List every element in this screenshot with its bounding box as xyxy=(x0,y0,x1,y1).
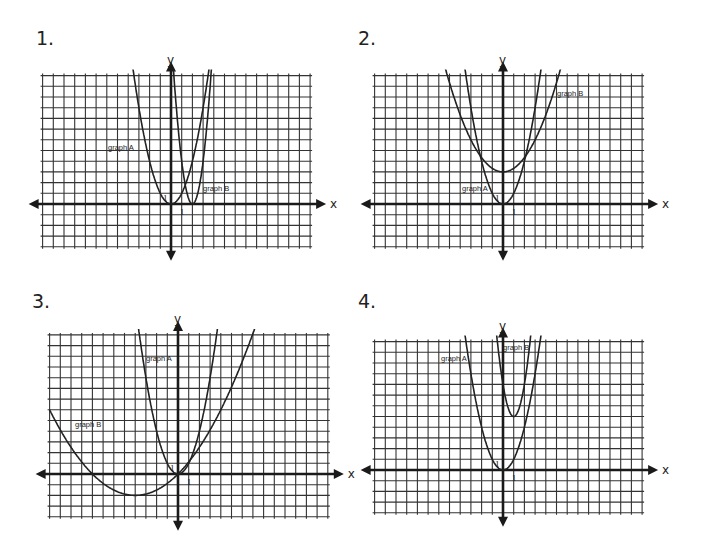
x-arrow-right-icon xyxy=(316,199,326,209)
grid xyxy=(373,340,644,515)
graph-b-label: graph B xyxy=(203,184,229,193)
x-arrow-left-icon xyxy=(361,465,371,475)
graph-panel-2: xy11graph Agraph B xyxy=(361,53,670,261)
x-arrow-left-icon xyxy=(29,199,39,209)
graphs-canvas: xy11graph Agraph Bxy11graph Agraph Bxy11… xyxy=(0,0,701,542)
grid xyxy=(373,74,644,249)
x-axis-label: x xyxy=(348,467,355,481)
graph-b-label: graph B xyxy=(557,89,583,98)
y-arrow-down-icon xyxy=(173,521,183,531)
graph-a-label: graph A xyxy=(441,354,467,363)
x-axis-label: x xyxy=(662,197,669,211)
graph-b-label: graph B xyxy=(503,343,529,352)
x-arrow-right-icon xyxy=(648,465,658,475)
x-axis-label: x xyxy=(330,197,337,211)
x-axis-label: x xyxy=(662,463,669,477)
graph-a-label: graph A xyxy=(108,143,134,152)
graph-panel-3: xy11graph Agraph B xyxy=(36,312,355,531)
y-axis-label: y xyxy=(174,312,181,326)
y-axis-label: y xyxy=(499,319,506,333)
graph-b-label: graph B xyxy=(75,420,101,429)
graph-a-label: graph A xyxy=(462,184,488,193)
y-arrow-down-icon xyxy=(498,251,508,261)
graph-panel-4: xy11graph Agraph B xyxy=(361,319,670,527)
x-arrow-right-icon xyxy=(334,469,344,479)
x-tick-label: 1 xyxy=(512,473,517,483)
graph-a-label: graph A xyxy=(146,354,172,363)
graph-panel-1: xy11graph Agraph B xyxy=(29,53,338,261)
y-axis-label: y xyxy=(167,53,174,67)
x-tick-label: 1 xyxy=(180,207,185,217)
x-tick-label: 1 xyxy=(512,207,517,217)
x-arrow-left-icon xyxy=(361,199,371,209)
x-arrow-left-icon xyxy=(36,469,46,479)
x-tick-label: 1 xyxy=(187,477,192,487)
y-arrow-down-icon xyxy=(166,251,176,261)
y-arrow-down-icon xyxy=(498,517,508,527)
x-arrow-right-icon xyxy=(648,199,658,209)
y-axis-label: y xyxy=(499,53,506,67)
